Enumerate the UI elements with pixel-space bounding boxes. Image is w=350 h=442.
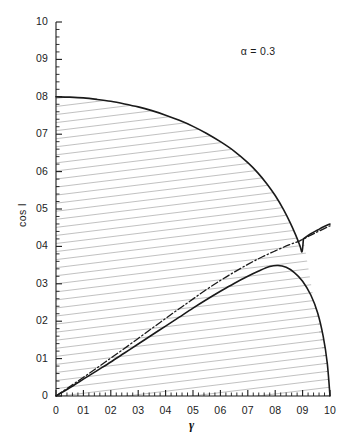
plot-canvas — [0, 0, 350, 442]
y-tick-label: 06 — [0, 165, 48, 177]
figure-container: 001020304050607080910 001020304050607080… — [0, 0, 350, 442]
hatched-regions — [0, 0, 350, 442]
y-axis-label: cos I — [16, 203, 28, 227]
y-tick-label: 02 — [0, 314, 48, 326]
y-tick-label: 03 — [0, 277, 48, 289]
x-tick-label: 10 — [310, 404, 350, 416]
y-tick-label: 10 — [0, 15, 48, 27]
y-tick-label: 09 — [0, 52, 48, 64]
y-tick-label: 04 — [0, 239, 48, 251]
alpha-annotation: α = 0.3 — [241, 45, 276, 57]
y-tick-label: 01 — [0, 352, 48, 364]
x-axis-label: γ — [189, 418, 194, 433]
y-tick-label: 0 — [0, 389, 48, 401]
y-tick-label: 08 — [0, 90, 48, 102]
upper-branch-rising — [303, 224, 330, 239]
y-tick-label: 07 — [0, 127, 48, 139]
